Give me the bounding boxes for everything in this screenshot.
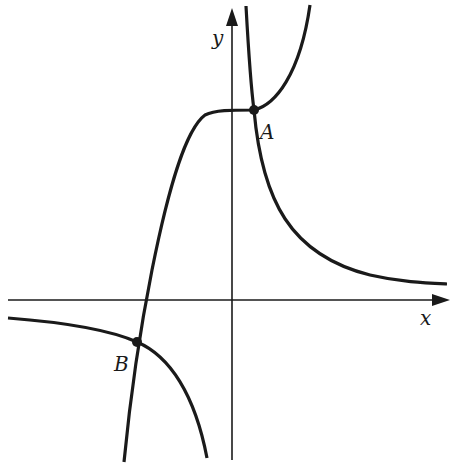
point-a-label: A (260, 120, 274, 144)
point-a (249, 105, 259, 115)
x-axis-label: x (420, 306, 431, 330)
cubic-curve (124, 5, 310, 462)
point-b-label: B (114, 352, 129, 376)
graph-canvas: y x A B (0, 0, 459, 466)
graph-svg (0, 0, 459, 466)
y-axis-label: y (212, 26, 223, 50)
x-axis-arrow-icon (432, 294, 450, 306)
point-b (132, 337, 142, 347)
hyperbola-left-branch (8, 318, 207, 458)
hyperbola-right-branch (246, 6, 447, 284)
y-axis-arrow-icon (226, 8, 238, 26)
